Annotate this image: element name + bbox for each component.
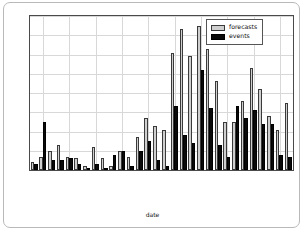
legend-swatch-forecasts <box>211 25 225 31</box>
y-axis-tick-mark <box>29 16 30 17</box>
bar-events-2013-06-22 <box>218 145 222 170</box>
bar-events-2013-06-05 <box>69 158 73 170</box>
chart-figure: 01020304050607080 2013-06-022013-06-0520… <box>0 0 305 231</box>
legend-item-forecasts: forecasts <box>211 23 257 32</box>
x-axis-tick-mark <box>122 170 123 171</box>
bar-events-2013-06-18 <box>183 135 187 170</box>
y-axis-tick-mark <box>29 112 30 113</box>
bar-forecasts-2013-06-16 <box>162 130 166 170</box>
x-axis-tick-mark <box>201 170 202 171</box>
y-axis-tick-mark <box>29 74 30 75</box>
bar-events-2013-06-13 <box>139 151 143 170</box>
y-axis-tick-mark <box>29 132 30 133</box>
bar-events-2013-06-06 <box>78 164 82 170</box>
y-axis-tick-mark <box>29 151 30 152</box>
legend-label-forecasts: forecasts <box>229 24 257 30</box>
bar-events-2013-06-11 <box>122 151 126 170</box>
legend-item-events: events <box>211 32 257 41</box>
x-axis-tick-mark <box>280 170 281 171</box>
x-axis-tick-mark <box>175 170 176 171</box>
bar-events-2013-06-07 <box>87 168 91 170</box>
bar-events-2013-06-30 <box>288 157 292 170</box>
bar-events-2013-06-12 <box>130 166 134 170</box>
x-axis-tick-mark <box>43 170 44 171</box>
bar-events-2013-06-21 <box>209 108 213 170</box>
legend-label-events: events <box>229 33 250 39</box>
x-axis-tick-mark <box>69 170 70 171</box>
y-axis-tick-mark <box>29 55 30 56</box>
bar-events-2013-06-25 <box>244 118 248 170</box>
bar-events-2013-06-01 <box>34 164 38 170</box>
bar-events-2013-06-16 <box>166 166 170 170</box>
bar-events-2013-06-26 <box>253 110 257 170</box>
bar-events-2013-06-27 <box>262 124 266 170</box>
bar-events-2013-06-15 <box>157 160 161 170</box>
bar-events-2013-06-29 <box>279 155 283 170</box>
chart-legend: forecasts events <box>206 19 263 45</box>
y-axis-tick-mark <box>29 93 30 94</box>
bar-events-2013-06-04 <box>60 160 64 170</box>
bar-events-2013-06-14 <box>148 141 152 170</box>
bar-events-2013-06-09 <box>104 168 108 170</box>
bar-events-2013-06-17 <box>174 106 178 170</box>
bar-events-2013-06-28 <box>271 124 275 170</box>
legend-swatch-events <box>211 34 225 40</box>
bar-events-2013-06-19 <box>192 143 196 170</box>
bar-events-2013-06-24 <box>236 106 240 170</box>
x-axis-tick-mark <box>148 170 149 171</box>
bar-events-2013-06-20 <box>201 70 205 170</box>
bar-events-2013-06-03 <box>52 160 56 170</box>
bar-events-2013-06-02 <box>43 122 47 170</box>
x-axis-tick-mark <box>96 170 97 171</box>
x-axis-label: date <box>0 211 305 218</box>
y-axis-tick-mark <box>29 35 30 36</box>
x-axis-tick-mark <box>227 170 228 171</box>
bar-events-2013-06-23 <box>227 157 231 170</box>
bar-events-2013-06-10 <box>113 155 117 170</box>
x-axis-tick-mark <box>254 170 255 171</box>
y-axis-tick-mark <box>29 170 30 171</box>
